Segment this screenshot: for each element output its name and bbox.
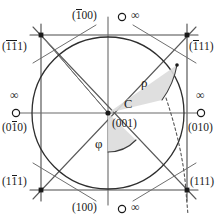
corner-label-top-left: (111) [2, 41, 27, 53]
infinity-label-left: ∞ [10, 89, 19, 101]
phi-angle-label: φ [95, 137, 103, 150]
pole-label-right: (010) [188, 122, 213, 134]
overbar-digit: 1 [12, 122, 18, 134]
infinity-label-right: ∞ [196, 89, 205, 101]
overbar-digit: 1 [193, 41, 199, 53]
corner-label-bottom-left: (111) [2, 176, 27, 188]
corner-marker-top-right [185, 33, 190, 38]
pole-marker-left [12, 109, 19, 116]
dashed-meridian [166, 98, 188, 215]
infinity-label-top: ∞ [131, 9, 140, 21]
corner-marker-bottom-left [39, 188, 44, 193]
overbar-digit: 1 [12, 176, 18, 188]
corner-marker-bottom-right [185, 188, 190, 193]
rho-pole-marker [175, 63, 179, 67]
center-pole-label: (001) [112, 118, 137, 130]
overbar-digit: 1 [12, 41, 18, 53]
center-point-label: C [124, 98, 132, 111]
pole-marker-right [197, 109, 204, 116]
gnomonic-projection-figure: (100) ∞ (100) ∞ ∞ (010) ∞ (010) (111) (1… [0, 0, 223, 223]
center-marker [105, 110, 110, 115]
overbar-digit: 1 [76, 10, 82, 22]
rho-angle-label: ρ [141, 76, 148, 89]
pole-marker-top [118, 13, 125, 20]
corner-marker-top-left [39, 33, 44, 38]
corner-label-top-right: (111) [189, 41, 214, 53]
projection-drawing [0, 0, 223, 223]
infinity-label-bottom: ∞ [131, 201, 140, 213]
pole-label-bottom: (100) [72, 202, 97, 214]
pole-label-left: (010) [2, 122, 27, 134]
pole-marker-bottom [118, 205, 125, 212]
pole-label-top: (100) [72, 10, 97, 22]
corner-label-bottom-right: (111) [190, 176, 214, 188]
